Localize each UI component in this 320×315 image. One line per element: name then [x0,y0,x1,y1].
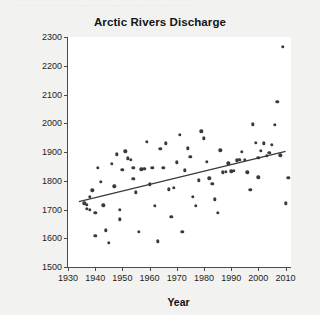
y-tick-label: 2200 [42,61,62,71]
x-tick-label: 1970 [167,273,187,283]
x-tick [231,267,232,271]
x-tick-label: 1950 [112,273,132,283]
y-tick-label: 1900 [42,147,62,157]
x-tick-label: 1940 [85,273,105,283]
y-tick [64,210,68,211]
y-tick-label: 2100 [42,90,62,100]
y-tick [64,37,68,38]
x-tick-label: 2010 [276,273,296,283]
x-tick [258,267,259,271]
chart-card: Arctic Rivers Discharge Water Discharge … [0,11,320,315]
x-tick [95,267,96,271]
y-tick-label: 1500 [42,262,62,272]
x-tick [122,267,123,271]
y-tick [64,95,68,96]
y-tick [64,66,68,67]
x-tick [150,267,151,271]
y-tick-label: 1700 [42,205,62,215]
x-tick-label: 1980 [194,273,214,283]
x-tick [204,267,205,271]
chart-page: · ··· ·· ··· ·· ···· ·· ··· ···· · ···· … [0,0,320,315]
y-tick-label: 2300 [42,32,62,42]
x-tick-label: 1930 [58,273,78,283]
x-tick-label: 1960 [140,273,160,283]
plot-inner [68,37,291,267]
chart-title: Arctic Rivers Discharge [0,16,320,28]
y-tick [64,152,68,153]
y-tick-label: 1600 [42,233,62,243]
x-tick [177,267,178,271]
cropped-text-strip: · ··· ·· ··· ·· ···· ·· ··· ···· · ···· … [0,0,320,11]
y-tick-label: 1800 [42,176,62,186]
x-tick [286,267,287,271]
trend-line [68,37,291,267]
x-tick-label: 2000 [248,273,268,283]
x-tick [68,267,69,271]
y-tick [64,181,68,182]
plot-area: 1500160017001800190020002100220023001930… [67,37,291,268]
y-tick [64,123,68,124]
y-tick [64,238,68,239]
x-tick-label: 1990 [221,273,241,283]
y-tick-label: 2000 [42,118,62,128]
x-axis-title: Year [67,296,290,308]
